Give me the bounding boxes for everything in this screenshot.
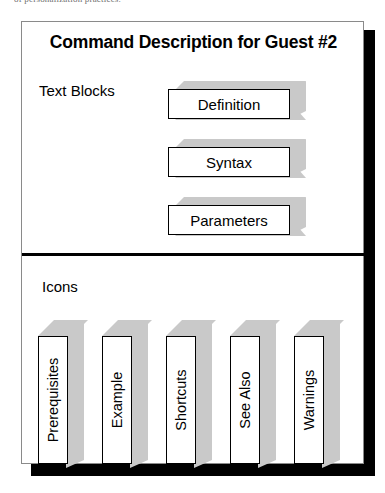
block-side-face xyxy=(322,320,340,468)
block-side-face xyxy=(66,320,84,468)
block-top-face xyxy=(176,81,306,89)
icon-block-label-wrap: Prerequisites xyxy=(38,336,68,464)
block-top-face xyxy=(176,139,306,147)
icon-block-example[interactable]: Example xyxy=(102,320,152,468)
text-block-parameters[interactable]: Parameters xyxy=(168,197,298,227)
icon-block-label-wrap: See Also xyxy=(230,336,260,464)
icon-block-label: Shortcuts xyxy=(173,369,189,430)
text-block-definition[interactable]: Definition xyxy=(168,81,298,111)
diagram-title: Command Description for Guest #2 xyxy=(22,32,365,53)
section-divider xyxy=(22,253,365,256)
icon-block-see-also[interactable]: See Also xyxy=(230,320,280,468)
icon-block-shortcuts[interactable]: Shortcuts xyxy=(166,320,216,468)
icon-block-prerequisites[interactable]: Prerequisites xyxy=(38,320,88,468)
section-label-icons: Icons xyxy=(42,278,78,295)
text-block-label: Syntax xyxy=(168,147,290,177)
icon-block-label: Prerequisites xyxy=(45,358,61,443)
icon-block-label: Example xyxy=(109,372,125,428)
block-top-face xyxy=(176,197,306,205)
icon-block-label: Warnings xyxy=(301,370,317,431)
icon-block-label-wrap: Shortcuts xyxy=(166,336,196,464)
diagram-frame: Command Description for Guest #2 Text Bl… xyxy=(21,21,364,464)
icon-block-warnings[interactable]: Warnings xyxy=(294,320,344,468)
text-block-syntax[interactable]: Syntax xyxy=(168,139,298,169)
icon-block-label: See Also xyxy=(237,371,253,428)
scan-cut-text: of personalization practices. xyxy=(14,0,154,6)
icon-block-label-wrap: Warnings xyxy=(294,336,324,464)
section-label-text-blocks: Text Blocks xyxy=(39,82,115,99)
block-side-face xyxy=(258,320,276,468)
text-block-label: Definition xyxy=(168,89,290,119)
text-block-label: Parameters xyxy=(168,205,290,235)
block-side-face xyxy=(194,320,212,468)
block-side-face xyxy=(130,320,148,468)
icon-block-label-wrap: Example xyxy=(102,336,132,464)
